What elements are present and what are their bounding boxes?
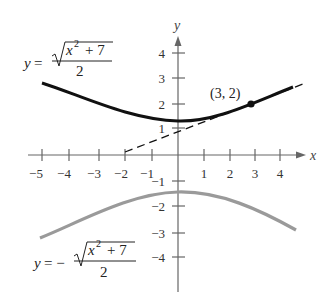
point-label: (3, 2) (210, 86, 241, 102)
y-axis-arrow-icon (175, 36, 182, 46)
svg-text:+ 7: + 7 (85, 42, 105, 58)
x-tick-label: −3 (87, 166, 101, 181)
svg-text:2: 2 (76, 63, 84, 79)
axes: x y (28, 18, 317, 292)
svg-text:y: y (32, 255, 41, 271)
tangent-point-marker (247, 100, 254, 107)
svg-text:x: x (87, 242, 95, 258)
y-axis-label: y (172, 18, 181, 33)
svg-text:2: 2 (100, 264, 108, 280)
svg-text:+ 7: + 7 (107, 242, 127, 258)
y-tick-label: −2 (151, 199, 165, 214)
x-tick-label: 4 (277, 166, 284, 181)
y-tick-label: 3 (159, 71, 166, 86)
y-tick-label: 4 (159, 46, 166, 61)
svg-text:y: y (22, 55, 31, 71)
chart: x y −5 −4 −3 −2 −1 1 2 3 4 4 3 (0, 0, 330, 307)
y-tick-label: 1 (159, 121, 166, 136)
lower-equation: y = − x 2 + 7 2 (32, 238, 136, 280)
svg-text:=: = (34, 55, 42, 71)
upper-branch-curve (42, 83, 293, 121)
y-tick-label: 2 (159, 97, 166, 112)
upper-equation: y = x 2 + 7 2 (22, 38, 113, 79)
lower-branch-curve (40, 192, 296, 238)
x-axis-label: x (309, 148, 317, 163)
y-tick-label: −4 (151, 250, 165, 265)
x-tick-label: 3 (252, 166, 259, 181)
x-tick-label: −4 (57, 166, 71, 181)
x-axis-arrow-icon (296, 152, 306, 159)
svg-text:2: 2 (96, 238, 101, 249)
svg-text:2: 2 (74, 38, 79, 49)
y-tick-label: −3 (151, 226, 165, 241)
y-tick-label: −1 (151, 174, 165, 189)
x-tick-label: 2 (227, 166, 234, 181)
svg-text:x: x (65, 42, 73, 58)
x-tick-label: 1 (201, 166, 208, 181)
x-tick-label: −2 (114, 166, 128, 181)
svg-text:= −: = − (44, 255, 65, 271)
x-tick-label: −5 (29, 166, 43, 181)
